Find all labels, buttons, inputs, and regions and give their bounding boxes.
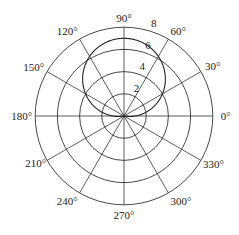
grid-spoke-330	[124, 116, 201, 160]
grid-spoke-210	[47, 116, 124, 160]
angle-label-150: 150°	[23, 61, 44, 73]
angle-label-270: 270°	[114, 209, 135, 221]
angle-label-90: 90°	[116, 12, 131, 24]
grid-spoke-120	[80, 39, 124, 116]
angle-label-120: 120°	[57, 25, 78, 37]
angle-label-60: 60°	[170, 25, 185, 37]
angle-label-300: 300°	[170, 195, 191, 207]
angle-label-0: 0°	[221, 110, 231, 122]
angle-label-180: 180°	[11, 110, 32, 122]
grid-spoke-300	[124, 116, 168, 193]
radial-label-8: 8	[151, 17, 157, 29]
angle-label-330: 330°	[203, 158, 224, 170]
polar-plot: 0°30°60°90°120°150°180°210°240°270°300°3…	[0, 0, 239, 235]
radial-label-2: 2	[134, 82, 140, 94]
radial-label-6: 6	[145, 39, 151, 51]
angle-label-210: 210°	[25, 157, 46, 169]
angle-label-30: 30°	[205, 60, 220, 72]
grid-spoke-240	[80, 116, 124, 193]
radial-label-4: 4	[140, 60, 146, 72]
angle-label-240: 240°	[57, 195, 78, 207]
radial-tick-labels: 2468	[134, 17, 157, 93]
